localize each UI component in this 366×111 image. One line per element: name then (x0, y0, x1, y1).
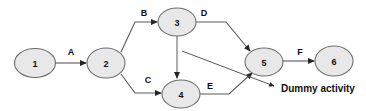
dummy-activity-label: Dummy activity (281, 83, 355, 94)
network-diagram-canvas: 1 2 3 4 5 6 (0, 0, 366, 111)
node-5[interactable]: 5 (245, 48, 283, 76)
node-3-label: 3 (174, 18, 179, 28)
edge-label-f: F (297, 47, 303, 57)
node-2[interactable]: 2 (87, 48, 125, 78)
node-1-label: 1 (32, 59, 37, 69)
node-3[interactable]: 3 (158, 8, 196, 36)
node-6[interactable]: 6 (315, 46, 353, 76)
node-4-label: 4 (178, 90, 183, 100)
edge-d-path (196, 22, 250, 51)
edge-c-path (121, 74, 161, 93)
node-6-label: 6 (331, 57, 336, 67)
node-5-label: 5 (261, 58, 266, 68)
edge-b-path (121, 22, 157, 52)
node-2-label: 2 (103, 59, 108, 69)
edge-label-b: B (141, 8, 148, 18)
edge-label-c: C (145, 75, 152, 85)
edge-label-e: E (207, 81, 213, 91)
edge-label-d: D (201, 8, 208, 18)
node-1[interactable]: 1 (15, 49, 56, 78)
edge-label-a: A (68, 47, 75, 57)
network-diagram-svg: 1 2 3 4 5 6 (0, 0, 366, 111)
node-4[interactable]: 4 (162, 80, 200, 108)
